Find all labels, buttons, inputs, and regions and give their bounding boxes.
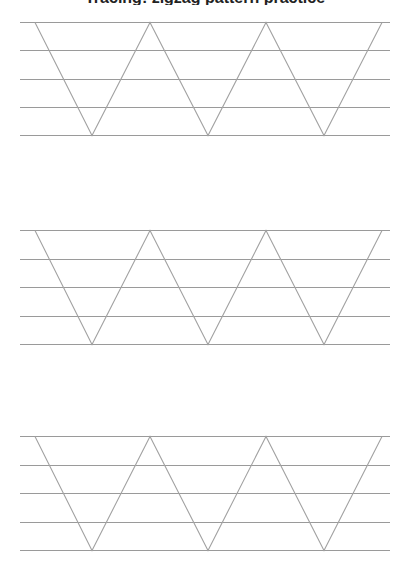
guide-lines	[20, 23, 390, 136]
tracing-block-2	[20, 231, 390, 345]
guide-lines	[20, 231, 390, 345]
guide-lines	[20, 437, 390, 551]
tracing-block-3	[20, 437, 390, 551]
tracing-block-1	[20, 23, 390, 136]
tracing-worksheet	[0, 0, 410, 574]
